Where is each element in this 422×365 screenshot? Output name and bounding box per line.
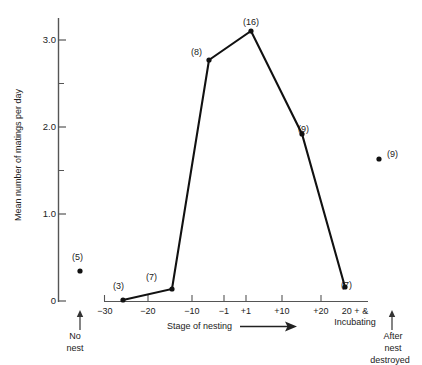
series-marker-7b: [342, 284, 347, 289]
x-axis-arrow-icon: [240, 322, 297, 332]
series-marker-7a: [169, 286, 174, 291]
series-marker-3: [120, 297, 125, 302]
isolated-marker-9: [376, 156, 381, 161]
series-line: [123, 31, 345, 300]
series-marker-9a: [299, 131, 304, 136]
isolated-marker-5: [77, 268, 82, 273]
after-nest-arrow-icon: [389, 310, 395, 330]
series-marker-16: [248, 28, 253, 33]
no-nest-arrow-icon: [77, 310, 83, 330]
series-marker-8: [206, 57, 211, 62]
